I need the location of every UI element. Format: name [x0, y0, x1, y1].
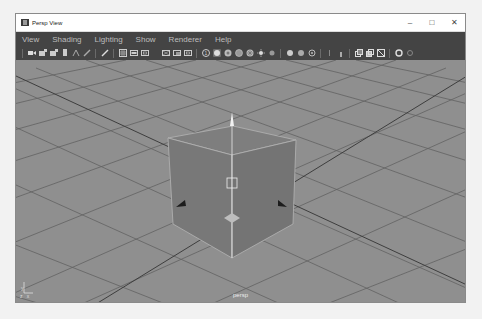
- menu-show[interactable]: Show: [136, 35, 156, 44]
- select-camera-icon[interactable]: [28, 49, 36, 57]
- title-bar[interactable]: Persp View – □ ✕: [16, 14, 465, 32]
- maximize-button[interactable]: □: [421, 14, 443, 31]
- screen-space-ao-icon[interactable]: [286, 49, 294, 57]
- minimize-button[interactable]: –: [399, 14, 421, 31]
- wireframe-icon[interactable]: [224, 49, 232, 57]
- motion-blur-icon[interactable]: [297, 49, 305, 57]
- resolution-gate-icon[interactable]: [141, 49, 149, 57]
- shadows-icon[interactable]: [268, 49, 276, 57]
- axis-z-label: z: [20, 293, 23, 299]
- safe-action-icon[interactable]: [184, 49, 192, 57]
- panel-options-icon[interactable]: [406, 49, 414, 57]
- toolbar-separator: [22, 49, 23, 58]
- window-title: Persp View: [32, 20, 62, 26]
- bookmarks-icon[interactable]: [50, 49, 58, 57]
- menu-bar: View Shading Lighting Show Renderer Help: [16, 32, 465, 46]
- camera-attributes-icon[interactable]: [39, 49, 47, 57]
- camera-name-label: persp: [233, 292, 248, 298]
- smooth-shade-icon[interactable]: [235, 49, 243, 57]
- svg-text:1: 1: [204, 50, 207, 56]
- field-chart-icon[interactable]: [173, 49, 181, 57]
- gamma-icon[interactable]: [366, 49, 374, 57]
- persp-view-window: Persp View – □ ✕ View Shading Lighting S…: [15, 13, 466, 303]
- use-all-lights-icon[interactable]: [257, 49, 265, 57]
- annotation-icon[interactable]: [101, 49, 109, 57]
- scene-canvas[interactable]: [16, 60, 465, 302]
- maya-app-icon: [21, 19, 29, 26]
- toolbar-separator: [95, 49, 96, 58]
- menu-renderer[interactable]: Renderer: [169, 35, 202, 44]
- menu-shading[interactable]: Shading: [52, 35, 81, 44]
- menu-lighting[interactable]: Lighting: [95, 35, 123, 44]
- film-gate-icon[interactable]: [130, 49, 138, 57]
- toolbar-separator: [349, 49, 350, 58]
- color-management-icon[interactable]: [377, 49, 385, 57]
- toolbar-separator: [113, 49, 114, 58]
- menu-help[interactable]: Help: [215, 35, 231, 44]
- xray-icon[interactable]: [213, 49, 221, 57]
- grease-pencil-icon[interactable]: [83, 49, 91, 57]
- axis-y-label: y: [21, 285, 24, 291]
- gate-mask-icon[interactable]: [162, 49, 170, 57]
- image-plane-icon[interactable]: [61, 49, 69, 57]
- toolbar-separator: [280, 49, 281, 58]
- 2d-pan-zoom-icon[interactable]: [72, 49, 80, 57]
- axis-xz-label: z x: [20, 293, 29, 299]
- axis-x-label: x: [27, 293, 30, 299]
- isolate-select-icon[interactable]: 1: [202, 49, 210, 57]
- multisample-aa-icon[interactable]: [308, 49, 316, 57]
- close-button[interactable]: ✕: [443, 14, 465, 31]
- menu-view[interactable]: View: [22, 35, 39, 44]
- toolbar-separator: [320, 49, 321, 58]
- toolbar-separator: [196, 49, 197, 58]
- hud-icon[interactable]: [337, 49, 345, 57]
- settings-icon[interactable]: [395, 49, 403, 57]
- exposure-icon[interactable]: [355, 49, 363, 57]
- 3d-viewport[interactable]: y z x persp: [16, 60, 465, 302]
- depth-of-field-icon[interactable]: [326, 49, 334, 57]
- grid-icon[interactable]: [119, 49, 127, 57]
- toolbar-separator: [389, 49, 390, 58]
- panel-toolbar: 1: [16, 46, 465, 61]
- textured-icon[interactable]: [246, 49, 254, 57]
